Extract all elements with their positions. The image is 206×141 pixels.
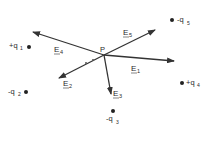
svg-text:3: 3 (116, 119, 119, 125)
svg-text:4: 4 (197, 82, 200, 88)
svg-text:5: 5 (187, 20, 190, 26)
svg-text:-q: -q (106, 114, 113, 123)
point-p: P (100, 45, 105, 54)
field-diagram: E 1 E 2 E 3 E 4 E 5 P +q 1 - (0, 0, 206, 141)
charge-q2: -q 2 (8, 87, 28, 97)
vector-e3: E 3 (104, 55, 122, 99)
vector-e1: E 1 (104, 55, 174, 74)
vector-e5: E 5 (104, 28, 155, 55)
svg-text:-q: -q (177, 15, 184, 24)
svg-text:3: 3 (119, 93, 122, 99)
charge-q5: -q 5 (170, 15, 190, 26)
vector-e2: E 2 (59, 55, 104, 89)
svg-text:E: E (63, 79, 68, 88)
svg-text:E: E (123, 28, 128, 37)
svg-text:E: E (113, 89, 118, 98)
svg-text:5: 5 (129, 32, 132, 38)
svg-text:P: P (100, 45, 105, 54)
svg-text:1: 1 (137, 68, 140, 74)
svg-text:E: E (54, 45, 59, 54)
svg-text:+q: +q (9, 41, 18, 50)
charge-q4: +q 4 (180, 78, 200, 88)
svg-text:-q: -q (8, 87, 15, 96)
svg-text:1: 1 (20, 45, 23, 51)
svg-text:E: E (131, 64, 136, 73)
charge-q3: -q 3 (106, 109, 119, 125)
svg-text:2: 2 (18, 91, 21, 97)
charge-q1: +q 1 (9, 41, 31, 51)
svg-text:4: 4 (60, 49, 63, 55)
svg-text:2: 2 (69, 83, 72, 89)
vector-e4: E 4 (33, 32, 104, 55)
svg-text:+q: +q (186, 78, 195, 87)
